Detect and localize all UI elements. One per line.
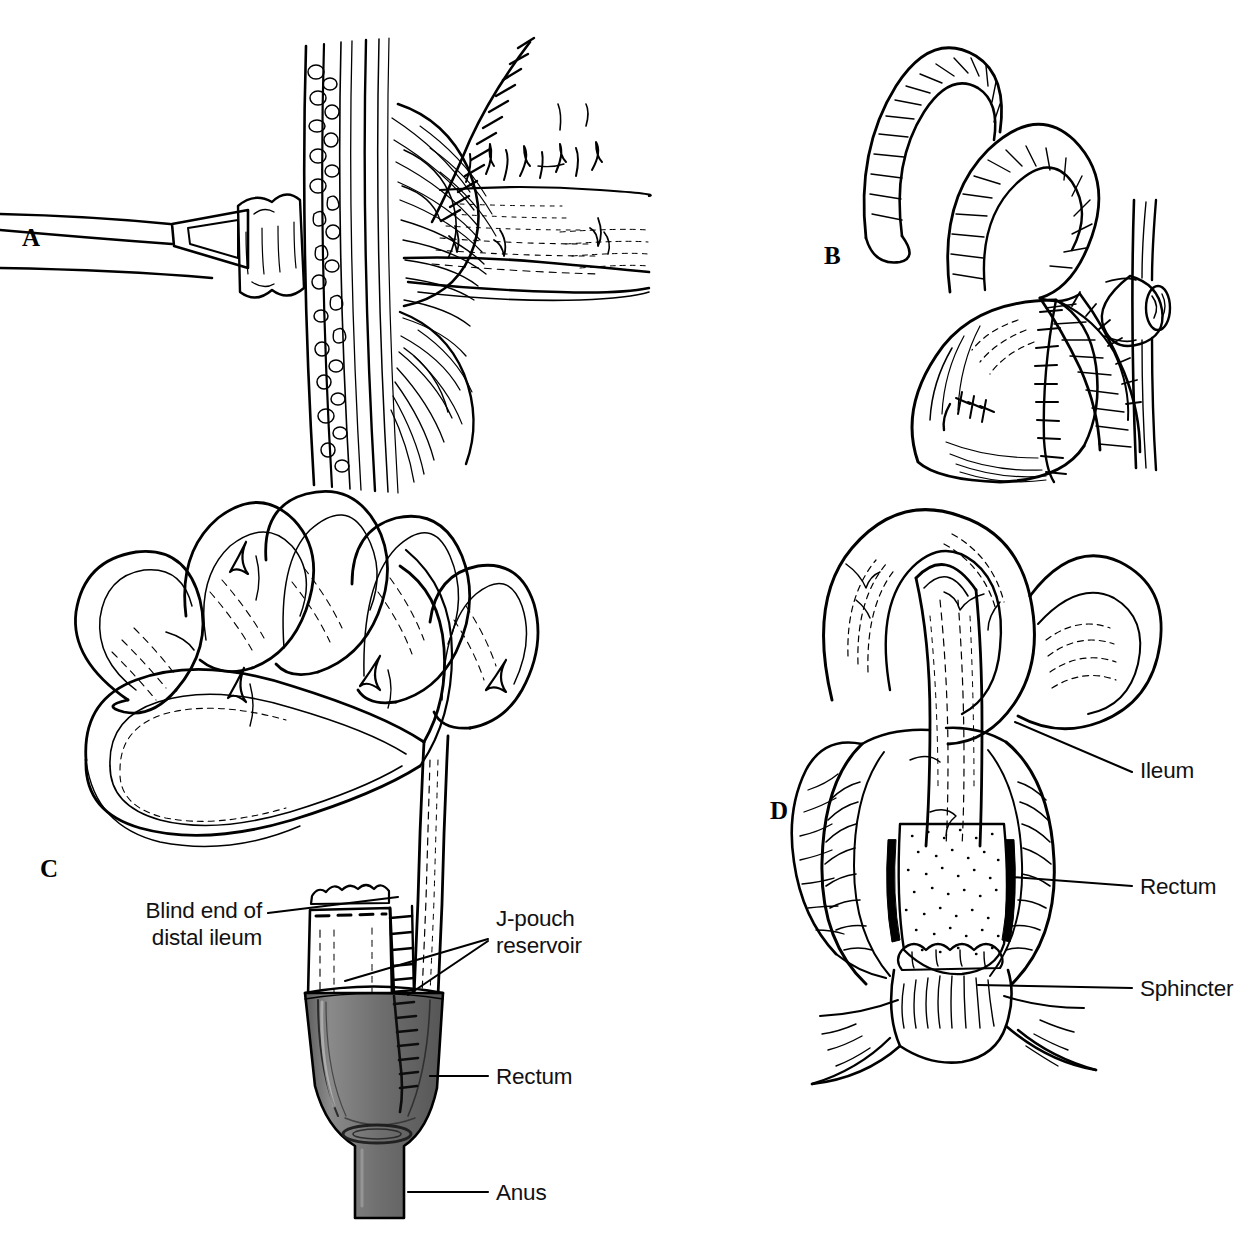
panel-letter-d: D	[770, 797, 789, 825]
label-rectum-panel-c: Rectum	[496, 1064, 626, 1091]
label-sphincter-panel-d: Sphincter	[1140, 976, 1249, 1003]
panel-letter-c: C	[40, 855, 59, 883]
figure-canvas: A B C D Blind end of distal ileum J-pouc…	[0, 0, 1249, 1243]
label-rectum-panel-d: Rectum	[1140, 874, 1249, 901]
label-anus-panel-c: Anus	[496, 1180, 606, 1207]
panel-letter-b: B	[824, 242, 841, 270]
label-blind-end-of-distal-ileum: Blind end of distal ileum	[112, 898, 262, 951]
medical-illustration-svg	[0, 0, 1249, 1243]
label-j-pouch-reservoir: J-pouch reservoir	[496, 906, 646, 959]
panel-letter-a: A	[22, 224, 41, 252]
label-ileum-panel-d: Ileum	[1140, 758, 1249, 785]
